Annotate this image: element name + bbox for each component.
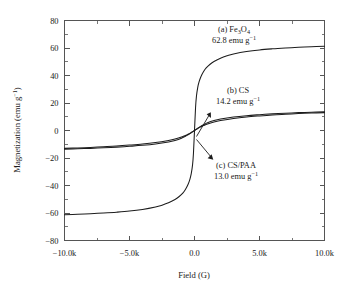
label-fe3o4-line1: (a) Fe3O4 bbox=[218, 25, 250, 35]
label-fe3o4-line2: 62.8 emu g−1 bbox=[212, 34, 256, 45]
curve-series-2 bbox=[65, 113, 325, 149]
y-tick-label: −60 bbox=[45, 209, 58, 218]
x-tick-label: −5.0k bbox=[120, 249, 140, 258]
annotation-cspaa: (c) CS/PAA 13.0 emu g−1 bbox=[214, 161, 258, 181]
y-tick-label: 40 bbox=[50, 72, 58, 81]
chart-canvas: −80−60−40−20020406080 −10.0k−5.0k0.05.0k… bbox=[0, 0, 352, 288]
x-tick-label: 5.0k bbox=[252, 249, 267, 258]
y-tick-label: 60 bbox=[50, 44, 58, 53]
y-axis-label-group: Magnetization (emu g−1) bbox=[11, 87, 22, 172]
arrow-to-cspaa-label bbox=[197, 140, 214, 160]
x-axis-tick-labels: −10.0k−5.0k0.05.0k10.0k bbox=[53, 249, 335, 258]
label-cspaa-line2: 13.0 emu g−1 bbox=[214, 170, 258, 181]
magnetization-hysteresis-figure: −80−60−40−20020406080 −10.0k−5.0k0.05.0k… bbox=[0, 0, 352, 288]
label-cs-line2: 14.2 emu g−1 bbox=[216, 95, 260, 106]
y-tick-label: 0 bbox=[54, 127, 58, 136]
data-curves bbox=[65, 46, 325, 214]
x-tick-label: 10.0k bbox=[315, 249, 335, 258]
label-cs-line1: (b) CS bbox=[227, 86, 249, 95]
x-tick-label: −10.0k bbox=[53, 249, 77, 258]
label-cspaa-line1: (c) CS/PAA bbox=[216, 161, 256, 170]
x-axis-label: Field (G) bbox=[178, 270, 210, 280]
annotation-fe3o4: (a) Fe3O4 62.8 emu g−1 bbox=[212, 25, 256, 45]
y-tick-label: −80 bbox=[45, 237, 58, 246]
y-tick-label: −40 bbox=[45, 182, 58, 191]
annotation-cs: (b) CS 14.2 emu g−1 bbox=[216, 86, 260, 106]
arrow-to-cs-label bbox=[197, 112, 212, 136]
y-tick-label: 80 bbox=[50, 17, 58, 26]
x-tick-label: 0.0 bbox=[189, 249, 199, 258]
y-axis-tick-labels: −80−60−40−20020406080 bbox=[45, 17, 58, 246]
y-axis-label: Magnetization (emu g−1) bbox=[11, 87, 22, 172]
y-tick-label: 20 bbox=[50, 99, 58, 108]
y-tick-label: −20 bbox=[45, 154, 58, 163]
